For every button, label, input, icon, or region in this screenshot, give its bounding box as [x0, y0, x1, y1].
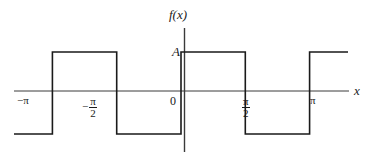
square-wave-figure: f(x) A x −π − π 2 0 π 2 π	[0, 0, 370, 166]
plot-canvas	[0, 0, 370, 166]
tick-label-neg-half-pi: − π 2	[82, 96, 97, 119]
tick-neg-half-pi-sign: −	[82, 100, 89, 115]
y-axis-label: f(x)	[169, 8, 187, 21]
x-axis-label: x	[354, 84, 360, 97]
tick-label-half-pi: π 2	[242, 96, 250, 119]
tick-neg-half-pi-fraction: π 2	[89, 96, 97, 119]
tick-label-pi: π	[310, 95, 316, 106]
tick-half-pi-denominator: 2	[243, 108, 249, 119]
tick-label-zero: 0	[170, 95, 176, 107]
tick-label-neg-pi: −π	[17, 95, 29, 106]
square-wave-trace	[14, 52, 348, 134]
amplitude-label: A	[172, 45, 180, 58]
tick-neg-half-pi-denominator: 2	[90, 108, 96, 119]
